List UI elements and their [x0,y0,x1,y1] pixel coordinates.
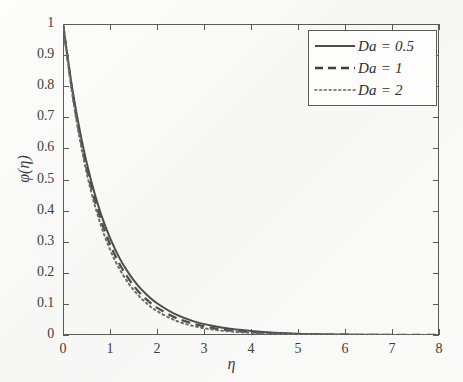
chart-legend: Da = 0.5 Da = 1 Da = 2 [308,30,437,106]
y-tick-label: 0.8 [14,77,54,93]
legend-label-0: Da = 0.5 [358,38,414,55]
figure-canvas: 00.10.20.30.40.50.60.70.80.91 012345678 … [0,0,463,382]
legend-item-0[interactable]: Da = 0.5 [309,35,436,57]
y-tick-mark [63,335,69,336]
y-tick-label: 0.3 [14,233,54,249]
y-tick-label: 0 [14,326,54,342]
legend-line-sample-dashed [314,62,356,74]
y-tick-label: 0.1 [14,295,54,311]
y-tick-mark-right [433,335,439,336]
y-tick-label: 0.9 [14,46,54,62]
y-tick-label: 0.4 [14,202,54,218]
y-tick-label: 0.7 [14,108,54,124]
legend-label-1: Da = 1 [358,60,403,77]
y-tick-label: 1 [14,15,54,31]
x-tick-mark-top [439,24,440,30]
legend-item-1[interactable]: Da = 1 [309,57,436,79]
y-tick-label: 0.2 [14,264,54,280]
x-axis-label: η [0,355,463,373]
legend-line-sample-dotted [314,84,356,96]
x-tick-mark [439,329,440,335]
legend-label-2: Da = 2 [358,82,403,99]
y-axis-label: φ(η) [15,139,33,199]
legend-item-2[interactable]: Da = 2 [309,79,436,101]
legend-line-sample-solid [314,40,356,52]
